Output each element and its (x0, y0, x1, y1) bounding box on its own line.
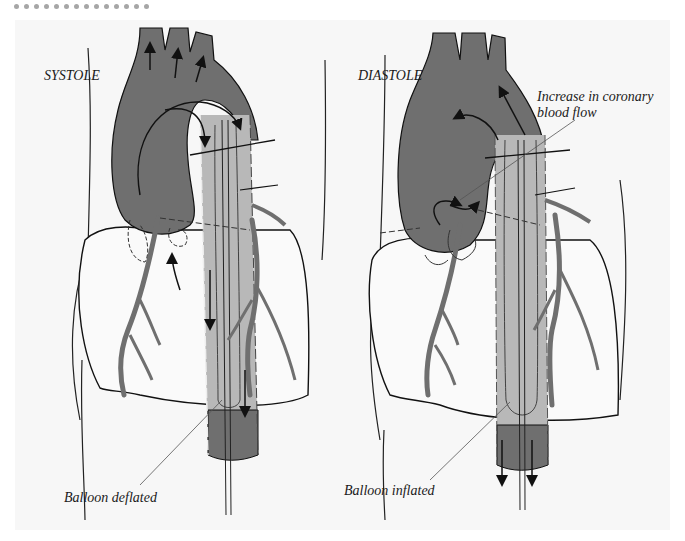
systole-heart (72, 28, 325, 520)
iabp-illustration (0, 0, 685, 541)
systole-title: SYSTOLE (44, 68, 100, 84)
diastole-title: DIASTOLE (358, 68, 422, 84)
balloon-deflated-label: Balloon deflated (64, 490, 157, 506)
coronary-flow-label-line1: Increase in coronary (537, 89, 653, 105)
balloon-inflated-label: Balloon inflated (344, 483, 435, 499)
coronary-flow-label-line2: blood flow (537, 105, 597, 121)
